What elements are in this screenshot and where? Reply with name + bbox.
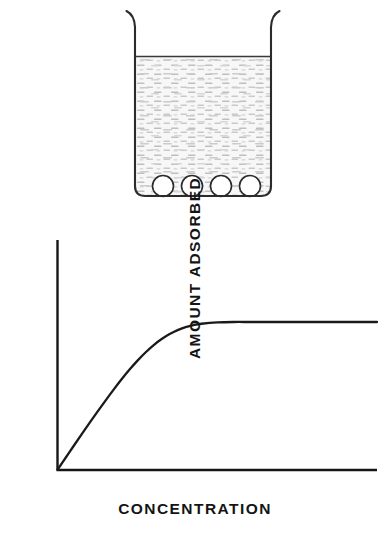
plot-axes bbox=[57, 240, 378, 471]
adsorption-isotherm-figure: AMOUNT ADSORBED CONCENTRATION bbox=[0, 0, 390, 536]
isotherm-curve bbox=[58, 322, 377, 469]
y-axis-label-text: AMOUNT ADSORBED bbox=[187, 177, 203, 359]
x-axis-label: CONCENTRATION bbox=[0, 500, 390, 518]
adsorbent-particle bbox=[211, 176, 232, 197]
adsorbent-particle bbox=[240, 176, 261, 197]
adsorbent-particle bbox=[153, 176, 174, 197]
